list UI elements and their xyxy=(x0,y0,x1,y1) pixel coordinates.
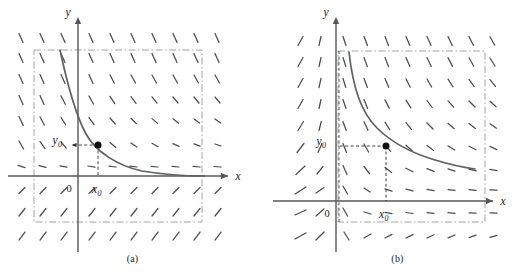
region-rectangle-b xyxy=(338,51,485,222)
solution-curve-a xyxy=(60,50,204,176)
slope-field-right-below-b xyxy=(343,208,497,240)
origin-label-a: 0 xyxy=(66,183,71,194)
initial-point-a xyxy=(95,142,102,149)
x0-label-a: x0 xyxy=(91,183,102,198)
x-axis-arrow-a xyxy=(221,173,228,179)
panel-b: y x 0 y0 x0 (b) xyxy=(265,0,530,279)
y-axis-arrow-b xyxy=(333,17,339,24)
x-axis-label-b: x xyxy=(499,195,506,207)
y-axis-arrow-a xyxy=(75,17,81,24)
panel-b-plot: y x 0 y0 x0 xyxy=(265,0,530,279)
initial-point-b xyxy=(383,143,390,150)
slope-field-above-a xyxy=(18,34,221,168)
origin-label-b: 0 xyxy=(324,208,329,219)
panel-a: y x 0 y0 x0 (a) xyxy=(0,0,265,279)
y-axis-label-a: y xyxy=(64,6,71,19)
y-axis-label-b: y xyxy=(322,6,329,19)
caption-b: (b) xyxy=(265,253,530,264)
x-axis-arrow-b xyxy=(486,198,493,204)
x-axis-label-a: x xyxy=(234,170,241,182)
panel-a-plot: y x 0 y0 x0 xyxy=(0,0,265,279)
y0-label-a: y0 xyxy=(51,134,62,149)
x0-label-b: x0 xyxy=(378,208,389,223)
caption-a: (a) xyxy=(0,253,265,264)
guide-arrow-a xyxy=(72,143,77,147)
slope-field-below-a xyxy=(19,188,221,241)
region-rectangle-a xyxy=(34,50,202,222)
figure-root: y x 0 y0 x0 (a) xyxy=(0,0,530,279)
